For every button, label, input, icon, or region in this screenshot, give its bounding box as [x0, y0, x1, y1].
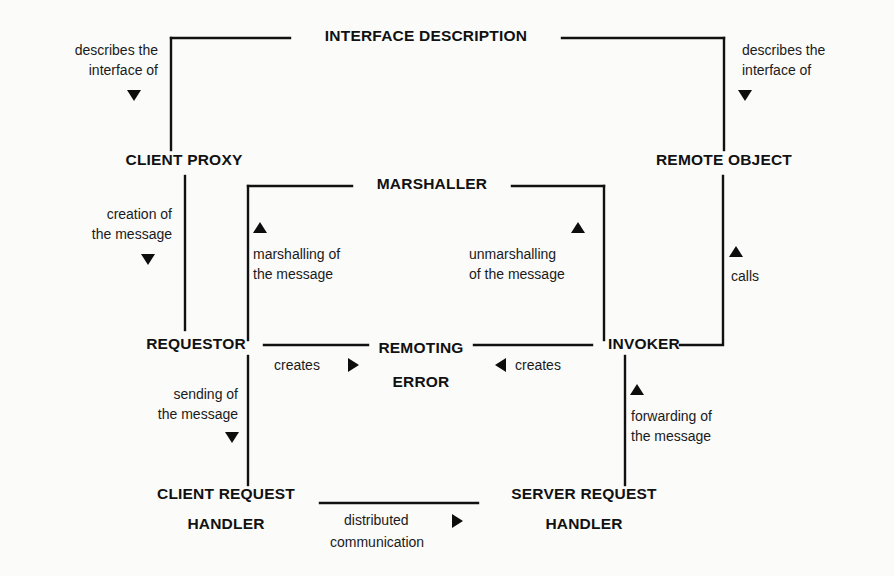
arrow-down-creation: [141, 254, 155, 265]
node-server-request-handler-line2[interactable]: HANDLER: [484, 514, 684, 535]
edge-label-describes-right-line2: interface of: [742, 62, 890, 80]
edge-label-creates-left: creates: [274, 357, 344, 375]
arrow-down-describes-right: [738, 90, 752, 101]
arrow-left-creates-right: [495, 358, 506, 372]
node-remote-object[interactable]: REMOTE OBJECT: [612, 150, 836, 171]
edge-label-distributed-line1: distributed: [344, 512, 448, 530]
edge-label-creation-line1: creation of: [30, 206, 172, 224]
node-client-request-handler-line1[interactable]: CLIENT REQUEST: [128, 484, 324, 505]
edge-label-unmarshalling-line1: unmarshalling: [469, 246, 601, 264]
edge-label-marshalling-line1: marshalling of: [253, 246, 393, 264]
node-marshaller[interactable]: MARSHALLER: [354, 174, 510, 195]
node-invoker[interactable]: INVOKER: [592, 334, 696, 355]
node-requestor[interactable]: REQUESTOR: [128, 334, 264, 355]
node-client-proxy[interactable]: CLIENT PROXY: [70, 150, 298, 171]
arrow-right-distributed: [452, 514, 463, 528]
edge-label-calls: calls: [731, 268, 821, 286]
edge-label-describes-left-line2: interface of: [10, 62, 158, 80]
edge-label-distributed-line2: communication: [330, 534, 478, 552]
node-client-request-handler-line2[interactable]: HANDLER: [128, 514, 324, 535]
edge-label-describes-right-line1: describes the: [742, 42, 890, 60]
arrow-up-forwarding: [630, 384, 644, 395]
node-remoting-error-line2[interactable]: ERROR: [366, 372, 476, 393]
edge-label-sending-line2: the message: [96, 406, 238, 424]
arrow-up-unmarshalling: [571, 222, 585, 233]
node-server-request-handler-line1[interactable]: SERVER REQUEST: [484, 484, 684, 505]
edge-label-creation-line2: the message: [30, 226, 172, 244]
arrow-right-creates-left: [348, 358, 359, 372]
edge-label-creates-right: creates: [515, 357, 585, 375]
edge-label-forwarding-line2: the message: [631, 428, 781, 446]
line-remote-object-to-invoker: [680, 176, 723, 345]
node-interface-description[interactable]: INTERFACE DESCRIPTION: [292, 26, 560, 47]
edge-label-unmarshalling-line2: of the message: [469, 266, 601, 284]
arrow-up-marshalling: [253, 222, 267, 233]
edge-label-sending-line1: sending of: [96, 386, 238, 404]
diagram-canvas: INTERFACE DESCRIPTION CLIENT PROXY REMOT…: [0, 0, 894, 576]
edge-label-marshalling-line2: the message: [253, 266, 393, 284]
arrow-up-calls: [729, 246, 743, 257]
arrow-down-describes-left: [127, 90, 141, 101]
arrow-down-sending: [225, 432, 239, 443]
node-remoting-error-line1[interactable]: REMOTING: [366, 338, 476, 359]
edge-label-forwarding-line1: forwarding of: [631, 408, 781, 426]
edge-label-describes-left-line1: describes the: [10, 42, 158, 60]
